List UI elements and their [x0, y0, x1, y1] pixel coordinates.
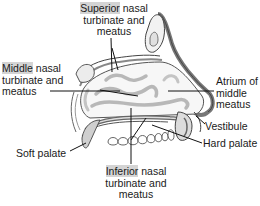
label-hard-palate: Hard palate: [203, 138, 257, 150]
label-atrium-middle-meatus: Atrium of middle meatus: [216, 76, 260, 111]
label-superior-turbinate: Superior nasal turbinate and meatus: [78, 3, 150, 38]
label-vestibule: Vestibule: [205, 121, 248, 133]
highlight-middle: Middle: [2, 62, 33, 74]
teeth: [108, 130, 174, 145]
highlight-inferior: Inferior: [106, 165, 139, 177]
palate: [86, 117, 188, 130]
label-inferior-turbinate: Inferior nasal turbinate and meatus: [96, 166, 176, 201]
highlight-superior: Superior: [80, 2, 120, 14]
label-soft-palate: Soft palate: [16, 148, 66, 160]
leader-superior: [111, 38, 112, 72]
label-middle-turbinate: Middle nasal turbinate and meatus: [2, 63, 74, 98]
